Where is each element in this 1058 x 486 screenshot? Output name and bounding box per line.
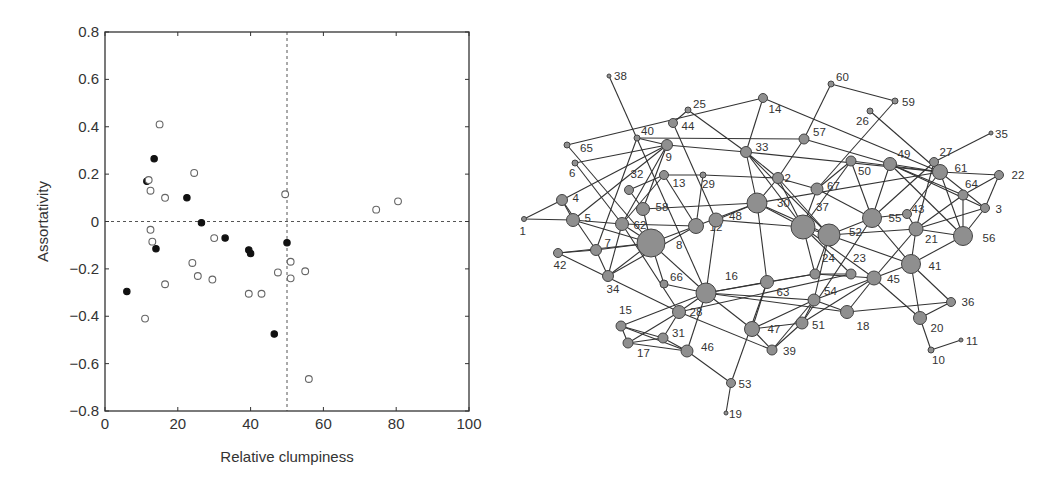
node-label: 27: [940, 146, 953, 158]
network-node: [673, 306, 686, 319]
network-node: [567, 214, 580, 227]
node-label: 40: [641, 125, 654, 137]
network-node: [557, 195, 568, 206]
network-node: [724, 411, 728, 415]
node-label: 8: [676, 239, 682, 251]
node-label: 51: [812, 319, 825, 331]
data-point-open: [282, 191, 289, 198]
data-point-filled: [247, 250, 253, 256]
data-point-open: [211, 235, 218, 242]
network-edge: [931, 340, 961, 350]
node-label: 45: [887, 273, 900, 285]
x-tick-label: 40: [242, 415, 259, 432]
network-node: [947, 298, 956, 307]
data-point-open: [245, 290, 252, 297]
network-node: [989, 131, 993, 135]
node-label: 34: [607, 283, 620, 295]
network-node: [591, 245, 602, 256]
data-point-open: [287, 275, 294, 282]
data-point-filled: [184, 195, 190, 201]
network-diagram: 1234567891011121314151617181920212223242…: [500, 0, 1058, 486]
node-label: 20: [931, 322, 944, 334]
network-node: [759, 94, 768, 103]
y-tick-label: −0.2: [69, 260, 99, 277]
node-label: 2: [785, 172, 791, 184]
network-node: [811, 183, 823, 195]
network-node: [796, 317, 808, 329]
network-edge: [609, 76, 706, 293]
network-edge: [622, 175, 664, 224]
data-point-open: [145, 177, 152, 184]
data-point-open: [142, 315, 149, 322]
node-label: 36: [962, 296, 975, 308]
scatter-plot-area: 020406080100−0.8−0.6−0.4−0.200.20.40.60.…: [34, 23, 482, 465]
network-edge: [778, 139, 804, 178]
node-label: 66: [670, 271, 683, 283]
network-node: [634, 135, 640, 141]
network-node: [799, 134, 809, 144]
network-edge: [815, 274, 874, 278]
node-label: 26: [856, 115, 869, 127]
data-point-open: [305, 376, 312, 383]
data-point-open: [147, 226, 154, 233]
network-node: [741, 147, 752, 158]
network-node: [828, 81, 834, 87]
network-edge: [524, 200, 562, 219]
network-edge: [667, 145, 746, 152]
network-edge: [916, 208, 985, 229]
network-node: [623, 338, 633, 348]
network-node: [884, 158, 897, 171]
network-node: [709, 213, 723, 227]
node-label: 62: [634, 219, 647, 231]
network-node: [564, 142, 570, 148]
node-label: 21: [925, 233, 938, 245]
node-label: 14: [769, 103, 782, 115]
node-label: 53: [739, 378, 752, 390]
node-label: 47: [768, 323, 781, 335]
y-tick-label: −0.6: [69, 355, 99, 372]
y-tick-label: 0.6: [78, 70, 99, 87]
network-node: [773, 173, 784, 184]
network-edge: [940, 172, 999, 175]
data-point-open: [191, 170, 198, 177]
network-node: [637, 203, 650, 216]
network-node: [791, 215, 815, 239]
node-label: 6: [569, 167, 575, 179]
x-tick-label: 80: [388, 415, 405, 432]
network-node: [696, 283, 716, 303]
network-node: [572, 160, 578, 166]
network-node: [914, 312, 927, 325]
network-node: [554, 249, 563, 258]
node-label: 17: [637, 347, 650, 359]
node-label: 41: [929, 260, 942, 272]
node-label: 39: [783, 345, 796, 357]
node-label: 35: [995, 128, 1008, 140]
node-label: 7: [605, 237, 611, 249]
data-point-open: [258, 290, 265, 297]
node-label: 1: [520, 225, 526, 237]
data-point-filled: [151, 156, 157, 162]
network-node: [660, 280, 668, 288]
node-label: 24: [822, 252, 835, 264]
node-label: 23: [853, 252, 866, 264]
y-axis-label: Assortativity: [34, 181, 51, 262]
network-node: [928, 347, 934, 353]
node-label: 9: [666, 151, 672, 163]
network-node: [867, 108, 873, 114]
node-label: 67: [827, 180, 840, 192]
x-axis-label: Relative clumpiness: [220, 448, 353, 465]
node-label: 42: [554, 259, 567, 271]
node-label: 57: [813, 126, 826, 138]
data-point-open: [189, 260, 196, 267]
network-edge: [916, 162, 934, 229]
node-label: 43: [912, 203, 925, 215]
network-node: [933, 165, 948, 180]
node-label: 13: [673, 177, 686, 189]
node-label: 50: [858, 165, 871, 177]
data-point-open: [287, 258, 294, 265]
data-point-filled: [284, 240, 290, 246]
y-tick-label: −0.4: [69, 307, 99, 324]
node-label: 55: [889, 212, 902, 224]
node-label: 10: [932, 354, 945, 366]
network-node: [616, 321, 626, 331]
